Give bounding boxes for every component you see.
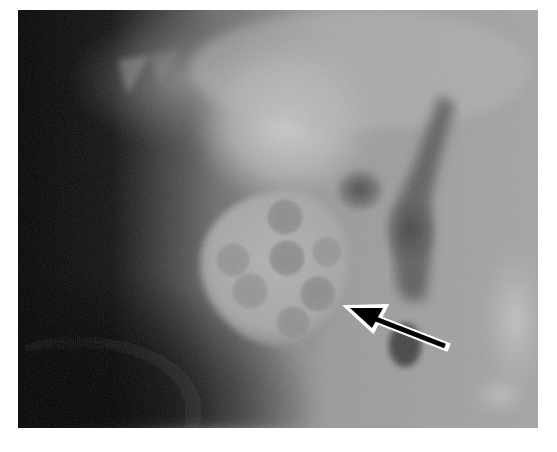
film-grain: [18, 10, 538, 428]
caption: [18, 432, 538, 448]
radiograph-svg: [18, 10, 538, 428]
radiograph-image: [18, 10, 538, 428]
